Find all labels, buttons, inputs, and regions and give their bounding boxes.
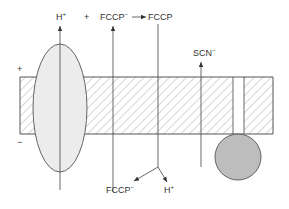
scn-anion-label: SCN− — [193, 47, 216, 58]
h-plus-top-label: H+ — [56, 11, 67, 22]
fccp-neutral-top-label: FCCP — [148, 12, 173, 22]
fccp-dissociation-arrow-anion — [134, 167, 158, 181]
inside-minus-label: − — [17, 137, 22, 147]
fccp-anion-bottom-label: FCCP− — [106, 184, 135, 195]
h-plus-bottom-label: H+ — [164, 184, 175, 195]
membrane-diagram: + − + H+ FCCP− FCCP SCN− FCCP− H+ — [0, 0, 289, 209]
fccp-side-plus-label: + — [84, 12, 89, 22]
diagram-canvas: + − + H+ FCCP− FCCP SCN− FCCP− H+ — [0, 0, 289, 209]
attached-particle-circle — [215, 134, 261, 180]
fccp-dissociation-arrow-proton — [158, 167, 167, 182]
fccp-anion-top-label: FCCP− — [100, 11, 129, 22]
outside-plus-label: + — [17, 64, 22, 74]
